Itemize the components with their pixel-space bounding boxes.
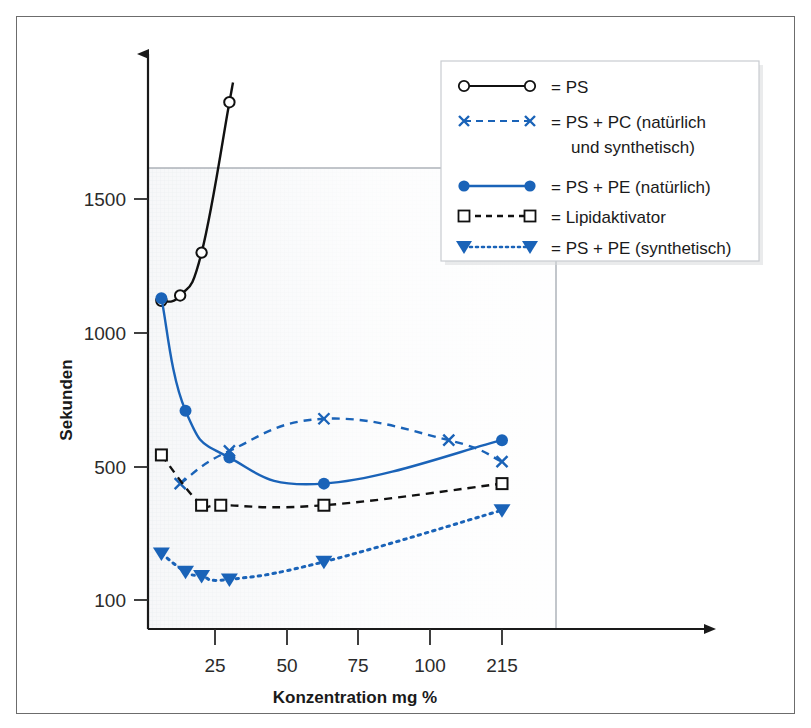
chart-svg: 1500 1000 500 100 25 50 75 100 215 Konze… (0, 0, 811, 728)
x-tick-label-50: 50 (276, 655, 297, 676)
legend-label-ps-pe-syn: = PS + PE (synthetisch) (551, 239, 731, 258)
y-axis-title: Sekunden (57, 359, 76, 440)
marker-open-circle (224, 97, 234, 107)
figure-root: 1500 1000 500 100 25 50 75 100 215 Konze… (0, 0, 811, 728)
x-axis-ticks: 25 50 75 100 215 (204, 629, 517, 676)
marker-filled-circle (318, 478, 330, 490)
x-tick-label-75: 75 (347, 655, 368, 676)
marker-open-square (196, 500, 207, 511)
y-tick-label-1500: 1500 (84, 189, 126, 210)
marker-filled-circle (155, 292, 167, 304)
filled-circle-icon (524, 180, 535, 191)
marker-open-square (318, 500, 329, 511)
x-tick-label-25: 25 (204, 655, 225, 676)
marker-filled-circle (496, 434, 508, 446)
legend-label-lipidaktivator: = Lipidaktivator (551, 208, 666, 227)
legend-box (441, 61, 759, 261)
x-tick-label-100: 100 (414, 655, 446, 676)
open-square-icon (525, 211, 536, 222)
legend-label-ps-pc-line2: und synthetisch) (571, 138, 695, 157)
y-tick-label-1000: 1000 (84, 323, 126, 344)
marker-open-circle (175, 290, 185, 300)
y-tick-label-100: 100 (94, 590, 126, 611)
legend-label-ps-pe-nat: = PS + PE (natürlich) (551, 178, 711, 197)
y-axis-ticks: 1500 1000 500 100 (84, 189, 148, 611)
marker-open-square (215, 500, 226, 511)
open-square-icon (459, 211, 470, 222)
plot-wrapper: 1500 1000 500 100 25 50 75 100 215 Konze… (0, 0, 811, 728)
legend-label-ps-pc: = PS + PC (natürlich (551, 113, 706, 132)
legend-label-ps: = PS (551, 78, 588, 97)
x-tick-label-215: 215 (486, 655, 518, 676)
marker-open-square (156, 449, 167, 460)
legend: = PS = PS + PC (natürlich und synthetisc… (441, 61, 763, 265)
marker-open-square (497, 478, 508, 489)
marker-filled-circle (223, 452, 235, 464)
marker-filled-circle (180, 405, 192, 417)
open-circle-icon (459, 81, 469, 91)
x-axis-title: Konzentration mg % (273, 688, 437, 707)
filled-circle-icon (458, 180, 469, 191)
open-circle-icon (525, 81, 535, 91)
marker-open-circle (196, 247, 206, 257)
y-tick-label-500: 500 (94, 457, 126, 478)
